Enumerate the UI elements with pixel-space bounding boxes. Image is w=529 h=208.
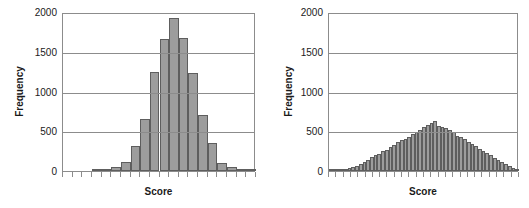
bar: [227, 167, 237, 171]
x-axis-tick: [101, 172, 102, 177]
x-axis-tick: [255, 172, 256, 177]
x-axis-tick: [423, 172, 424, 177]
x-axis-tick: [245, 172, 246, 177]
y-axis-tick-label: 0: [21, 167, 57, 177]
y-axis-tick-label: 500: [21, 127, 57, 137]
bar: [246, 169, 256, 171]
bar: [169, 18, 179, 171]
bar: [140, 119, 150, 171]
x-axis-tick: [474, 172, 475, 177]
x-axis-tick: [343, 172, 344, 177]
bar: [150, 72, 160, 171]
gridline: [63, 93, 254, 94]
y-axis-tick-label: 1000: [287, 88, 323, 98]
gridline: [329, 93, 517, 94]
x-axis-tick: [503, 172, 504, 177]
x-axis-tick: [62, 172, 63, 177]
bar: [102, 169, 112, 171]
x-axis-tick: [236, 172, 237, 177]
y-axis-tick-label: 2000: [21, 8, 57, 18]
x-axis-tick: [216, 172, 217, 177]
chart-panel-right: Frequency 0500100015002000 Score: [265, 0, 529, 208]
x-axis-tick: [445, 172, 446, 177]
x-axis-tick: [430, 172, 431, 177]
bar: [208, 143, 218, 171]
y-axis-tick-label: 500: [287, 127, 323, 137]
x-axis-tick: [207, 172, 208, 177]
x-axis-tick: [467, 172, 468, 177]
x-axis-tick: [386, 172, 387, 177]
histogram-figure: Frequency 0500100015002000 Score Frequen…: [0, 0, 529, 208]
bar: [92, 169, 102, 171]
x-axis-tick: [130, 172, 131, 177]
x-axis-ticks-right: [328, 172, 518, 177]
plot-area-left: [62, 13, 255, 172]
x-axis-title-right: Score: [328, 186, 518, 197]
y-axis-tick-label: 0: [287, 167, 323, 177]
x-axis-ticks-left: [62, 172, 255, 177]
gridline: [329, 132, 517, 133]
y-axis-tick-label: 2000: [287, 8, 323, 18]
gridline: [63, 132, 254, 133]
x-axis-tick: [438, 172, 439, 177]
bar: [515, 169, 519, 171]
x-axis-tick: [72, 172, 73, 177]
x-axis-tick: [159, 172, 160, 177]
x-axis-tick: [372, 172, 373, 177]
x-axis-tick: [481, 172, 482, 177]
bar: [237, 169, 247, 171]
x-axis-tick: [197, 172, 198, 177]
x-axis-tick: [168, 172, 169, 177]
x-axis-tick: [81, 172, 82, 177]
bar: [131, 146, 141, 171]
x-axis-tick: [178, 172, 179, 177]
x-axis-tick: [489, 172, 490, 177]
x-axis-tick: [91, 172, 92, 177]
x-axis-tick: [110, 172, 111, 177]
bar: [198, 115, 208, 171]
x-axis-tick: [187, 172, 188, 177]
x-axis-tick: [139, 172, 140, 177]
bar: [217, 163, 227, 171]
bar: [179, 38, 189, 171]
x-axis-tick: [401, 172, 402, 177]
x-axis-tick: [350, 172, 351, 177]
x-axis-tick: [379, 172, 380, 177]
bar: [188, 73, 198, 171]
x-axis-tick: [149, 172, 150, 177]
gridline: [329, 53, 517, 54]
x-axis-tick: [416, 172, 417, 177]
x-axis-tick: [226, 172, 227, 177]
x-axis-tick: [120, 172, 121, 177]
x-axis-tick: [394, 172, 395, 177]
y-axis-tick-label: 1500: [287, 48, 323, 58]
x-axis-tick: [496, 172, 497, 177]
x-axis-title-left: Score: [62, 186, 255, 197]
x-axis-tick: [335, 172, 336, 177]
plot-area-right: [328, 13, 518, 172]
x-axis-tick: [452, 172, 453, 177]
gridline: [63, 53, 254, 54]
x-axis-tick: [511, 172, 512, 177]
bar: [160, 39, 170, 171]
bar: [111, 167, 121, 171]
y-axis-tick-label: 1500: [21, 48, 57, 58]
x-axis-tick: [518, 172, 519, 177]
y-axis-tick-label: 1000: [21, 88, 57, 98]
bar: [121, 162, 131, 171]
x-axis-tick: [357, 172, 358, 177]
x-axis-tick: [365, 172, 366, 177]
x-axis-tick: [328, 172, 329, 177]
x-axis-tick: [408, 172, 409, 177]
chart-panel-left: Frequency 0500100015002000 Score: [0, 0, 265, 208]
x-axis-tick: [460, 172, 461, 177]
